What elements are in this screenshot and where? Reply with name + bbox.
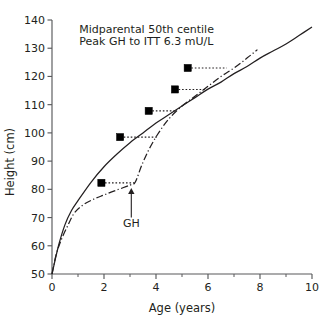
y-axis-tick-label: 90 <box>31 155 45 168</box>
data-point-marker <box>184 64 191 71</box>
growth-chart-svg: 5060708090100110120130140 0246810 Midpar… <box>0 0 324 318</box>
y-axis-tick-label: 70 <box>31 212 45 225</box>
x-axis-tick-label: 6 <box>205 281 212 294</box>
x-axis-tick-label: 10 <box>305 281 319 294</box>
y-axis-tick-label: 140 <box>24 14 45 27</box>
gh-arrow-head <box>128 188 134 194</box>
marker-connector-lines <box>105 68 227 183</box>
midparental-note: Midparental 50th centile <box>79 23 214 36</box>
y-axis-tick-label: 110 <box>24 99 45 112</box>
y-axis-tick-label: 120 <box>24 70 45 83</box>
y-axis-title: Height (cm) <box>3 128 17 196</box>
chart-annotations: Midparental 50th centilePeak GH to ITT 6… <box>79 23 214 231</box>
data-point-marker <box>145 107 152 114</box>
x-axis-tick-label: 4 <box>153 281 160 294</box>
x-axis-tick-label: 2 <box>101 281 108 294</box>
y-axis-tick-label: 80 <box>31 183 45 196</box>
growth-chart-figure: 5060708090100110120130140 0246810 Midpar… <box>0 0 324 318</box>
centile-curve-line <box>52 27 312 274</box>
y-axis: 5060708090100110120130140 <box>24 14 52 281</box>
data-point-marker <box>98 179 105 186</box>
x-axis-title: Age (years) <box>149 301 216 315</box>
data-point-marker <box>117 134 124 141</box>
y-axis-tick-label: 60 <box>31 240 45 253</box>
peak-gh-note: Peak GH to ITT 6.3 mU/L <box>79 35 214 48</box>
gh-arrow-label: GH <box>123 217 140 230</box>
y-axis-tick-label: 50 <box>31 268 45 281</box>
x-axis: 0246810 <box>49 274 320 294</box>
y-axis-tick-label: 100 <box>24 127 45 140</box>
data-point-marker <box>171 86 178 93</box>
data-point-markers <box>98 64 192 186</box>
chart-series-lines <box>52 27 312 274</box>
patient-curve-line <box>52 50 257 274</box>
x-axis-tick-label: 8 <box>257 281 264 294</box>
y-axis-tick-label: 130 <box>24 42 45 55</box>
x-axis-tick-label: 0 <box>49 281 56 294</box>
